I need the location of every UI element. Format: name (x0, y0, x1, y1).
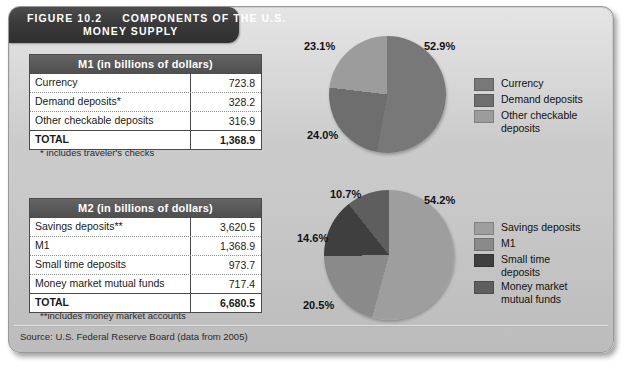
table-m2-header: M2 (in billions of dollars) (30, 199, 261, 218)
figure-number: FIGURE 10.2 (27, 12, 102, 24)
legend-label: Savings deposits (501, 221, 580, 234)
legend-item: Other checkable deposits (474, 110, 587, 134)
figure-title-line1: COMPONENTS OF THE U.S. (122, 12, 286, 24)
table-m2-footnote: **includes money market accounts (40, 310, 186, 321)
pie2-label-m1: 20.5% (303, 299, 334, 311)
source-divider (14, 325, 608, 327)
table-m1-footnote: * includes traveler's checks (40, 147, 154, 158)
row-label: Small time deposits (30, 256, 191, 274)
pie-chart-m2 (324, 190, 454, 320)
legend-swatch-icon (474, 78, 494, 91)
pie1-label-currency: 52.9% (424, 40, 455, 52)
row-label: Other checkable deposits (30, 112, 191, 130)
table-row: Currency 723.8 (30, 74, 261, 92)
legend-swatch-icon (474, 281, 494, 294)
table-row: Demand deposits* 328.2 (30, 92, 261, 111)
table-m1-header: M1 (in billions of dollars) (30, 55, 261, 74)
pie2-label-savings: 54.2% (424, 194, 455, 206)
row-value: 717.4 (191, 276, 261, 293)
pie1-label-demand-deposits: 24.0% (307, 129, 338, 141)
figure-title-line2: MONEY SUPPLY (27, 25, 239, 38)
row-value: 316.9 (191, 113, 261, 130)
legend-item: Small time deposits (474, 254, 585, 278)
legend-swatch-icon (474, 222, 494, 235)
total-value: 6,680.5 (191, 295, 261, 312)
table-m1: M1 (in billions of dollars) Currency 723… (29, 54, 262, 150)
pie2-label-small-time: 14.6% (297, 232, 328, 244)
table-m2: M2 (in billions of dollars) Savings depo… (29, 198, 262, 313)
row-value: 1,368.9 (191, 238, 261, 255)
legend-swatch-icon (474, 110, 494, 123)
legend-item: Money market mutual funds (474, 281, 585, 305)
legend-m1: Currency Demand deposits Other checkable… (474, 78, 587, 137)
legend-label: Money market mutual funds (501, 280, 585, 305)
row-value: 328.2 (191, 94, 261, 111)
total-value: 1,368.9 (191, 132, 261, 149)
table-row: Small time deposits 973.7 (30, 255, 261, 274)
legend-item: Demand deposits (474, 94, 587, 107)
figure-card-root: FIGURE 10.2 COMPONENTS OF THE U.S. MONEY… (0, 0, 625, 374)
table-row: M1 1,368.9 (30, 236, 261, 255)
legend-item: Savings deposits (474, 222, 585, 235)
row-value: 3,620.5 (191, 219, 261, 236)
pie-chart-m1 (329, 36, 446, 153)
table-row: Other checkable deposits 316.9 (30, 111, 261, 130)
legend-label: Small time deposits (501, 253, 575, 278)
row-label: Savings deposits** (30, 218, 191, 236)
row-value: 723.8 (191, 75, 261, 92)
legend-m2: Savings deposits M1 Small time deposits … (474, 222, 585, 308)
row-label: Money market mutual funds (30, 275, 191, 293)
table-row: Savings deposits** 3,620.5 (30, 218, 261, 236)
legend-swatch-icon (474, 94, 494, 107)
legend-label: M1 (501, 237, 516, 250)
legend-item: Currency (474, 78, 587, 91)
row-label: M1 (30, 237, 191, 255)
figure-title-bar: FIGURE 10.2 COMPONENTS OF THE U.S. MONEY… (9, 7, 239, 43)
legend-swatch-icon (474, 254, 494, 267)
pie2-label-money-market: 10.7% (330, 188, 361, 200)
legend-label: Other checkable deposits (501, 109, 587, 134)
legend-item: M1 (474, 238, 585, 251)
row-label: Currency (30, 74, 191, 92)
legend-label: Demand deposits (501, 93, 583, 106)
legend-label: Currency (501, 77, 544, 90)
legend-swatch-icon (474, 238, 494, 251)
source-note: Source: U.S. Federal Reserve Board (data… (20, 331, 248, 342)
row-label: Demand deposits* (30, 93, 191, 111)
row-value: 973.7 (191, 257, 261, 274)
table-row: Money market mutual funds 717.4 (30, 274, 261, 293)
figure-title-row1: FIGURE 10.2 COMPONENTS OF THE U.S. (27, 12, 239, 25)
pie1-label-other-checkable: 23.1% (304, 40, 335, 52)
